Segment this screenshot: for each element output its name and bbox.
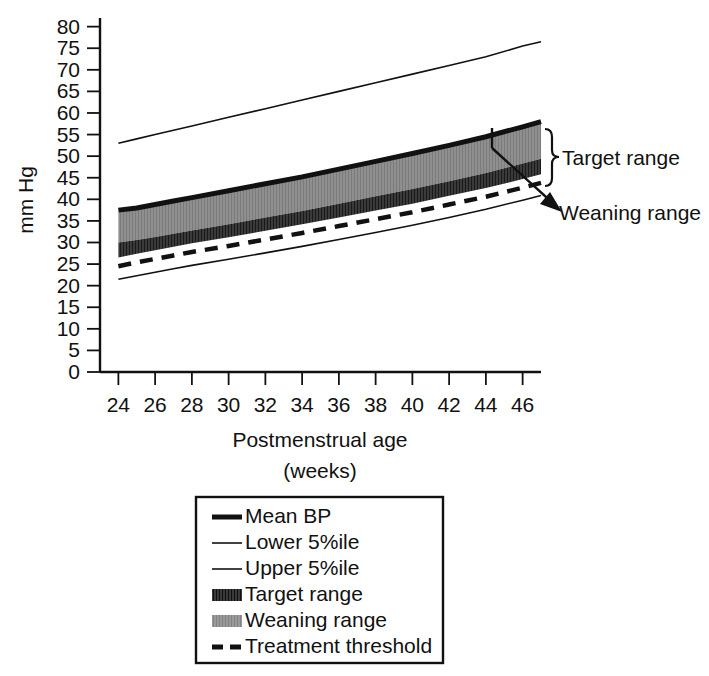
y-axis-title: mm Hg [14,166,37,234]
y-tick-label-20: 20 [57,274,80,297]
y-axis-ticks: 05101520253035404550556065707580 [57,15,100,383]
y-tick-label-45: 45 [57,166,80,189]
y-tick-label-60: 60 [57,101,80,124]
legend-swatch-weaning-range-icon [212,615,242,627]
y-tick-label-0: 0 [68,360,80,383]
y-tick-label-65: 65 [57,79,80,102]
y-tick-label-50: 50 [57,144,80,167]
x-tick-label-32: 32 [254,393,277,416]
y-tick-label-35: 35 [57,209,80,232]
x-axis-title-units: (weeks) [283,459,357,482]
x-tick-label-26: 26 [143,393,166,416]
x-tick-label-46: 46 [511,393,534,416]
x-tick-label-30: 30 [217,393,240,416]
blood-pressure-chart-figure: 05101520253035404550556065707580 2426283… [0,0,709,676]
y-tick-label-25: 25 [57,252,80,275]
legend-label: Treatment threshold [245,634,432,657]
chart-svg: 05101520253035404550556065707580 2426283… [0,0,709,676]
legend-label: Target range [245,582,363,605]
x-tick-label-34: 34 [290,393,314,416]
legend-swatch-target-range-icon [212,589,242,601]
y-tick-label-10: 10 [57,317,80,340]
legend-label: Mean BP [245,504,331,527]
legend-label: Weaning range [245,608,387,631]
x-tick-label-40: 40 [401,393,424,416]
legend-item-treatment-threshold: Treatment threshold [212,634,432,657]
chart-legend: Mean BPLower 5%ileUpper 5%ileTarget rang… [196,497,443,663]
y-tick-label-75: 75 [57,36,80,59]
x-tick-label-42: 42 [437,393,460,416]
y-tick-label-55: 55 [57,123,80,146]
y-tick-label-15: 15 [57,295,80,318]
x-axis-title: Postmenstrual age [232,428,407,451]
target-range-annotation-label: Target range [562,146,680,169]
legend-label: Lower 5%ile [245,530,359,553]
y-tick-label-70: 70 [57,58,80,81]
y-tick-label-80: 80 [57,15,80,38]
y-tick-label-30: 30 [57,230,80,253]
legend-label: Upper 5%ile [245,556,359,579]
x-tick-label-28: 28 [180,393,203,416]
x-tick-label-44: 44 [474,393,498,416]
weaning-range-annotation-label: Weaning range [559,201,701,224]
x-tick-label-24: 24 [107,393,131,416]
y-tick-label-40: 40 [57,187,80,210]
target-range-annotation: Target range [545,129,680,186]
x-axis-ticks: 242628303234363840424446 [107,372,535,416]
y-tick-label-5: 5 [68,338,80,361]
x-tick-label-36: 36 [327,393,350,416]
x-tick-label-38: 38 [364,393,387,416]
